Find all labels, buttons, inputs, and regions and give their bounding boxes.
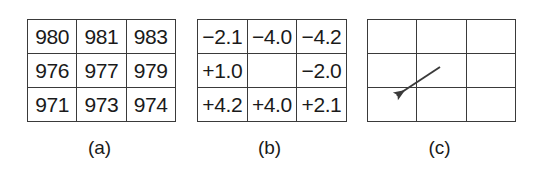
grid-a-cell-r1c2: 979 [126, 54, 175, 88]
table-row: 976 977 979 [28, 54, 176, 88]
table-row [368, 54, 516, 88]
grid-b-cell-r2c0: +4.2 [198, 88, 248, 122]
panel-c [367, 19, 516, 122]
table-row [368, 88, 516, 122]
grid-a-cell-r1c0: 976 [28, 54, 77, 88]
table-row: 980 981 983 [28, 20, 176, 54]
grid-b-cell-r1c1-empty [247, 54, 297, 88]
grid-a-cell-r1c1: 977 [77, 54, 126, 88]
grid-b-cell-r2c2: +2.1 [297, 88, 347, 122]
grid-c-cell-r2c2 [466, 88, 515, 122]
grid-c-cell-r1c2 [466, 54, 515, 88]
grid-b-cell-r1c0: +1.0 [198, 54, 248, 88]
panel-a: 980 981 983 976 977 979 971 973 974 [27, 19, 176, 122]
arrow-grid-c [367, 19, 516, 122]
grid-a-cell-r0c0: 980 [28, 20, 77, 54]
panel-b: −2.1 −4.0 −4.2 +1.0 −2.0 +4.2 +4.0 +2.1 [197, 19, 347, 122]
grid-a-cell-r2c0: 971 [28, 88, 77, 122]
grid-b-cell-r0c0: −2.1 [198, 20, 248, 54]
caption-b: (b) [197, 138, 342, 157]
caption-c: (c) [367, 138, 512, 157]
grid-c-cell-r0c2 [466, 20, 515, 54]
grid-c-cell-r2c1 [417, 88, 466, 122]
table-row: +4.2 +4.0 +2.1 [198, 88, 347, 122]
grid-c-cell-r0c0 [368, 20, 417, 54]
grid-c-cell-r0c1 [417, 20, 466, 54]
table-row [368, 20, 516, 54]
grid-a-cell-r0c1: 981 [77, 20, 126, 54]
grid-b-cell-r1c2: −2.0 [297, 54, 347, 88]
table-row: 971 973 974 [28, 88, 176, 122]
grid-c-cell-r2c0 [368, 88, 417, 122]
grid-c-cell-r1c1 [417, 54, 466, 88]
grid-c-cell-r1c0 [368, 54, 417, 88]
figure-container: 980 981 983 976 977 979 971 973 974 [0, 0, 541, 180]
table-row: −2.1 −4.0 −4.2 [198, 20, 347, 54]
grid-b-cell-r0c1: −4.0 [247, 20, 297, 54]
caption-a: (a) [27, 138, 172, 157]
value-grid-a: 980 981 983 976 977 979 971 973 974 [27, 19, 176, 122]
grid-a-cell-r2c1: 973 [77, 88, 126, 122]
grid-b-cell-r2c1: +4.0 [247, 88, 297, 122]
grid-a-cell-r0c2: 983 [126, 20, 175, 54]
grid-a-cell-r2c2: 974 [126, 88, 175, 122]
grid-b-cell-r0c2: −4.2 [297, 20, 347, 54]
difference-grid-b: −2.1 −4.0 −4.2 +1.0 −2.0 +4.2 +4.0 +2.1 [197, 19, 347, 122]
table-row: +1.0 −2.0 [198, 54, 347, 88]
